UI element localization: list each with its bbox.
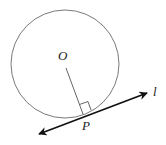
label-center-o: O bbox=[58, 48, 68, 63]
label-point-p: P bbox=[81, 118, 90, 133]
radius-segment bbox=[66, 68, 83, 114]
label-line-l: l bbox=[153, 84, 157, 99]
circle bbox=[11, 10, 119, 118]
tangent-diagram: O P l bbox=[0, 0, 166, 145]
tangent-line bbox=[39, 93, 147, 134]
